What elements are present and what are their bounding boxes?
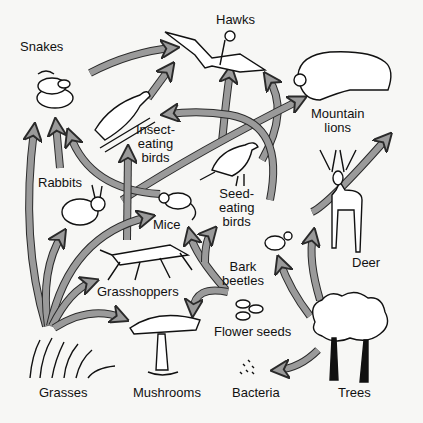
- snake-icon: [37, 71, 73, 108]
- label-grasses: Grasses: [39, 386, 87, 400]
- bacteria-icon: [240, 360, 254, 374]
- arrow-rabbits-to-snakes: [56, 125, 60, 168]
- tree-icon: [313, 292, 388, 382]
- mountain-lion-icon: [294, 52, 391, 100]
- rabbit-icon: [62, 185, 105, 225]
- arrow-to-hawks-center: [222, 72, 230, 142]
- arrow-grasses-to-mushrooms: [54, 313, 122, 328]
- label-deer: Deer: [352, 256, 380, 270]
- label-snakes: Snakes: [20, 40, 63, 54]
- label-trees: Trees: [338, 386, 371, 400]
- arrow-snakes-to-hawks: [90, 48, 172, 73]
- label-rabbits: Rabbits: [38, 176, 82, 190]
- label-flower-seeds: Flower seeds: [214, 325, 291, 339]
- arrow-trees-to-bacteria: [278, 350, 318, 370]
- arrow-flower-seeds-to-seed-birds: [205, 232, 212, 262]
- label-hawks: Hawks: [216, 13, 255, 27]
- grasshopper-icon: [100, 245, 192, 280]
- arrow-trees-to-bark-beetles: [280, 262, 310, 316]
- grass-icon: [30, 338, 115, 378]
- label-insect-eating-birds: Insect- eating birds: [136, 123, 175, 165]
- seeds-icon: [236, 300, 263, 320]
- label-grasshoppers: Grasshoppers: [97, 285, 179, 299]
- arrows-layer: [0, 0, 423, 423]
- label-mushrooms: Mushrooms: [133, 386, 201, 400]
- mouse-icon: [159, 193, 196, 220]
- hawk-icon: [165, 31, 265, 72]
- label-mice: Mice: [153, 218, 180, 232]
- label-bacteria: Bacteria: [232, 386, 280, 400]
- label-mountain-lions: Mountain lions: [311, 107, 364, 135]
- food-web-diagram: Snakes Hawks Mountain lions Insect- eati…: [0, 0, 423, 423]
- label-bark-beetles: Bark beetles: [222, 260, 264, 288]
- label-seed-eating-birds: Seed- eating birds: [219, 187, 254, 229]
- arrow-insect-birds-to-hawks: [148, 68, 170, 98]
- mushroom-icon: [130, 316, 200, 376]
- beetle-icon: [265, 232, 292, 250]
- arrow-flower-seeds-to-mushrooms: [193, 290, 228, 310]
- arrow-trees-to-deer: [312, 235, 320, 300]
